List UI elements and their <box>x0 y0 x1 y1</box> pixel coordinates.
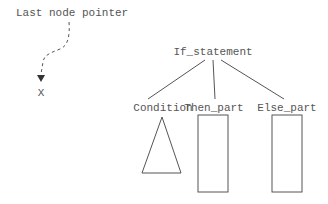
else-part-label: Else_part <box>257 102 316 114</box>
last-node-pointer-label: Last node pointer <box>16 7 128 19</box>
pointer-target-x: X <box>38 87 45 99</box>
then-part-label: Then_part <box>184 102 243 114</box>
edge-condition <box>148 60 205 99</box>
dashed-pointer-arrow <box>41 22 69 74</box>
if-statement-diagram: Last node pointer X If_statement Conditi… <box>0 0 328 204</box>
then-part-rectangle <box>198 115 228 192</box>
else-part-rectangle <box>272 115 302 192</box>
arrowhead-icon <box>37 75 45 82</box>
condition-subtree-triangle <box>142 117 181 173</box>
if-statement-node: If_statement <box>173 46 252 58</box>
edge-else-part <box>221 60 284 99</box>
edge-then-part <box>213 60 215 99</box>
